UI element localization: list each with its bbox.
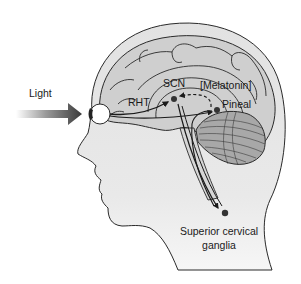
label-ganglia-line2: ganglia <box>202 240 236 251</box>
diagram-canvas: Light RHT SCN [Melatonin] Pineal Superio… <box>0 0 301 284</box>
scn-node <box>171 96 177 102</box>
pineal-node <box>214 107 220 113</box>
head-diagram-svg <box>0 0 301 284</box>
label-rht: RHT <box>128 97 150 108</box>
label-scn: SCN <box>163 78 185 89</box>
label-light: Light <box>29 88 52 99</box>
light-arrow <box>16 103 82 125</box>
label-ganglia-line1: Superior cervical <box>180 226 258 237</box>
ganglia-node <box>222 210 228 216</box>
label-pineal: Pineal <box>222 99 251 110</box>
label-melatonin: [Melatonin] <box>200 80 251 91</box>
